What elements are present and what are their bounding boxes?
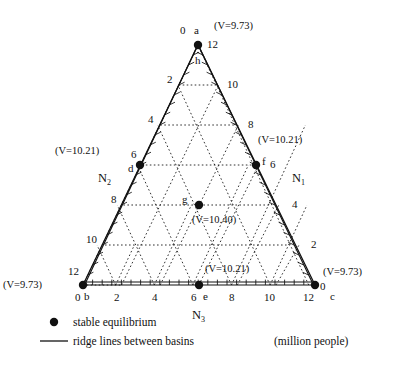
axis-label-n1-sub: 1 bbox=[301, 178, 305, 187]
point-label-h: h bbox=[195, 54, 201, 66]
tick-label-right-0: 0 bbox=[320, 280, 326, 292]
axis-label-n1: N1 bbox=[292, 171, 305, 187]
data-point-c[interactable] bbox=[311, 281, 319, 289]
tick-label-right-8: 8 bbox=[248, 118, 254, 130]
point-labels: a b c d e f g h bbox=[84, 24, 335, 302]
grid-line-diagonal-left bbox=[178, 85, 270, 285]
axis-label-n2: N2 bbox=[98, 171, 111, 187]
point-label-f: f bbox=[262, 155, 266, 167]
tick-label-apex-left: 0 bbox=[180, 24, 186, 36]
axis-label-n2-main: N bbox=[98, 171, 107, 185]
value-label-e: (V=10.21) bbox=[205, 263, 250, 275]
tick-label-right-2: 2 bbox=[311, 238, 317, 250]
axis-label-n3: N3 bbox=[192, 308, 205, 324]
tick-label-bottom-8: 8 bbox=[229, 291, 235, 303]
value-label-g: (V=10.40) bbox=[192, 214, 237, 226]
data-point-g[interactable] bbox=[195, 201, 203, 209]
value-label-f: (V=10.21) bbox=[258, 134, 303, 146]
axis-label-n2-sub: 2 bbox=[107, 178, 111, 187]
point-label-e: e bbox=[203, 290, 208, 302]
legend: stable equilibrium ridge lines between b… bbox=[40, 316, 195, 348]
tick-label-left-8: 8 bbox=[111, 193, 117, 205]
tick-label-bottom-6: 6 bbox=[191, 291, 197, 303]
legend-label-stable-equilibrium: stable equilibrium bbox=[73, 316, 156, 329]
tick-label-bottom-4: 4 bbox=[152, 291, 158, 303]
data-point-e[interactable] bbox=[195, 281, 203, 289]
legend-label-ridge-lines: ridge lines between basins bbox=[73, 335, 195, 348]
tick-label-right-4: 4 bbox=[292, 198, 298, 210]
value-label-b: (V=9.73) bbox=[3, 279, 42, 291]
tick-label-apex-right: 12 bbox=[207, 38, 218, 50]
point-label-a: a bbox=[194, 24, 199, 36]
axis-label-n3-sub: 3 bbox=[201, 315, 205, 324]
ternary-diagram-figure: a b c d e f g h (V=9.73) (V=9.73) (V=9.7… bbox=[0, 0, 395, 366]
data-point-d[interactable] bbox=[136, 161, 144, 169]
tick-label-right-10: 10 bbox=[227, 78, 239, 90]
tick-label-left-2: 2 bbox=[167, 73, 173, 85]
tick-label-left-12: 12 bbox=[68, 265, 79, 277]
value-annotations: (V=9.73) (V=9.73) (V=9.73) (V=10.21) (V=… bbox=[3, 20, 362, 291]
grid-line-diagonal-right bbox=[276, 245, 299, 285]
point-label-d: d bbox=[128, 162, 134, 174]
point-label-c: c bbox=[330, 290, 335, 302]
value-label-d: (V=10.21) bbox=[55, 145, 100, 157]
tick-label-bottom-12: 12 bbox=[303, 291, 314, 303]
grid-line-diagonal-right bbox=[270, 205, 307, 285]
tick-label-bottom-2: 2 bbox=[114, 291, 120, 303]
tick-label-left-10: 10 bbox=[86, 233, 98, 245]
units-note: (million people) bbox=[274, 335, 349, 348]
tick-label-right-6: 6 bbox=[270, 158, 276, 170]
tick-label-bottom-10: 10 bbox=[264, 291, 276, 303]
grid-line-diagonal-right bbox=[122, 85, 219, 285]
data-point-b[interactable] bbox=[79, 281, 87, 289]
grid-line-diagonal-left bbox=[117, 205, 154, 285]
ternary-plot-svg: a b c d e f g h (V=9.73) (V=9.73) (V=9.7… bbox=[0, 0, 395, 366]
tick-label-left-4: 4 bbox=[148, 113, 154, 125]
axis-label-n3-main: N bbox=[192, 308, 201, 322]
point-label-b: b bbox=[84, 290, 90, 302]
value-label-c: (V=9.73) bbox=[323, 266, 362, 278]
axis-label-n1-main: N bbox=[292, 171, 301, 185]
data-point-a[interactable] bbox=[194, 41, 202, 49]
data-point-f[interactable] bbox=[252, 161, 260, 169]
tick-label-left-6: 6 bbox=[131, 148, 137, 160]
tick-label-bottom-0: 0 bbox=[75, 291, 81, 303]
legend-marker-icon bbox=[50, 318, 58, 326]
grid-line-diagonal-right bbox=[116, 245, 135, 285]
value-label-a: (V=9.73) bbox=[214, 20, 253, 32]
point-label-g: g bbox=[182, 193, 188, 205]
